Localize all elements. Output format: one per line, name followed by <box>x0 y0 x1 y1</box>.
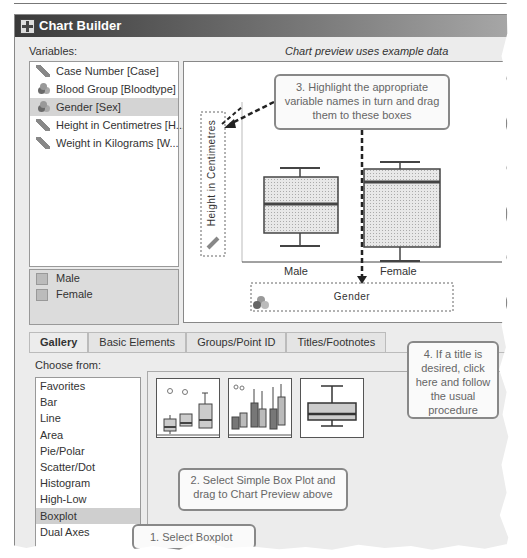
variable-item-case[interactable]: Case Number [Case] <box>30 62 178 80</box>
simple-boxplot-icon <box>157 379 219 437</box>
x-category-female: Female <box>380 265 417 277</box>
scale-ruler-icon <box>36 137 50 149</box>
category-item: Female <box>30 286 178 302</box>
chart-type-favorites[interactable]: Favorites <box>36 378 140 394</box>
callout-step2: 2. Select Simple Box Plot and drag to Ch… <box>178 468 348 511</box>
category-item: Male <box>30 270 178 286</box>
scale-ruler-icon <box>36 119 50 131</box>
nominal-icon <box>36 101 50 113</box>
chart-type-line[interactable]: Line <box>36 410 140 426</box>
variable-item-height[interactable]: Height in Centimetres [H... <box>30 116 178 134</box>
variable-item-sex[interactable]: Gender [Sex] <box>30 98 178 116</box>
y-axis-label: Height in Centimetres <box>206 113 220 233</box>
thumbnail-simple-boxplot[interactable] <box>156 378 220 438</box>
variable-label: Blood Group [Bloodtype] <box>56 83 176 95</box>
variable-label: Height in Centimetres [H... <box>56 119 185 131</box>
clustered-boxplot-icon <box>229 379 291 437</box>
chart-type-high-low[interactable]: High-Low <box>36 491 140 507</box>
thumbnail-1d-boxplot[interactable] <box>300 378 364 438</box>
tab-basic-elements[interactable]: Basic Elements <box>88 332 186 352</box>
chart-type-histogram[interactable]: Histogram <box>36 475 140 491</box>
thumbnail-clustered-boxplot[interactable] <box>228 378 292 438</box>
tab-gallery[interactable]: Gallery <box>29 332 88 352</box>
variable-label: Case Number [Case] <box>56 65 159 77</box>
one-d-boxplot-icon <box>301 379 363 437</box>
chart-type-dual-axes[interactable]: Dual Axes <box>36 524 140 540</box>
chart-preview-canvas[interactable]: Height in Centimetres Male Female Gender… <box>183 61 507 323</box>
category-list: Male Female <box>29 269 179 325</box>
chart-builder-icon <box>20 19 35 34</box>
chart-builder-window: Chart Builder Variables: Chart preview u… <box>14 14 516 556</box>
scale-ruler-icon <box>36 65 50 77</box>
category-label: Male <box>56 272 80 284</box>
y-axis-drop-zone[interactable]: Height in Centimetres <box>201 112 225 256</box>
tab-bar: Gallery Basic Elements Groups/Point ID T… <box>29 332 386 352</box>
variable-item-weight[interactable]: Weight in Kilograms [W... <box>30 134 178 152</box>
variables-label: Variables: <box>29 45 77 57</box>
x-axis-drop-zone[interactable]: Gender <box>251 283 453 311</box>
chart-type-list[interactable]: Favorites Bar Line Area Pie/Polar Scatte… <box>35 377 141 556</box>
category-label: Female <box>56 288 93 300</box>
nominal-icon <box>36 83 50 95</box>
preview-note: Chart preview uses example data <box>285 45 448 57</box>
chart-type-boxplot[interactable]: Boxplot <box>36 508 140 524</box>
variable-label: Gender [Sex] <box>56 101 121 113</box>
x-category-male: Male <box>284 265 308 277</box>
tab-titles-footnotes[interactable]: Titles/Footnotes <box>286 332 386 352</box>
chart-type-scatter-dot[interactable]: Scatter/Dot <box>36 459 140 475</box>
category-icon <box>36 289 48 301</box>
page-rule <box>14 0 522 4</box>
chart-type-area[interactable]: Area <box>36 427 140 443</box>
window-title: Chart Builder <box>39 18 121 33</box>
variable-list[interactable]: Case Number [Case] Blood Group [Bloodtyp… <box>29 61 179 267</box>
chart-type-bar[interactable]: Bar <box>36 394 140 410</box>
title-bar: Chart Builder <box>15 15 515 37</box>
variable-item-bloodtype[interactable]: Blood Group [Bloodtype] <box>30 80 178 98</box>
chart-type-pie-polar[interactable]: Pie/Polar <box>36 443 140 459</box>
tab-groups-point-id[interactable]: Groups/Point ID <box>186 332 286 352</box>
choose-from-label: Choose from: <box>35 359 101 371</box>
callout-step4: 4. If a title is desired, click here and… <box>407 341 499 419</box>
variable-label: Weight in Kilograms [W... <box>56 137 179 149</box>
category-icon <box>36 273 48 285</box>
callout-step3: 3. Highlight the appropriate variable na… <box>274 74 450 130</box>
